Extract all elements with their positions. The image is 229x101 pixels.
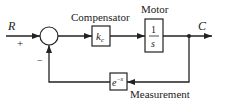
summing-junction	[40, 27, 58, 45]
feedback-line-left	[49, 45, 110, 82]
measurement-title: Measurement	[130, 88, 190, 100]
input-label: R	[7, 19, 16, 33]
minus-sign: −	[37, 55, 43, 66]
block-diagram: R + − Compensator kc Motor 1 s C e−x Mea…	[0, 0, 229, 101]
motor-title: Motor	[141, 3, 169, 15]
motor-denominator: s	[151, 38, 155, 49]
motor-numerator: 1	[151, 24, 156, 35]
output-label: C	[198, 19, 207, 33]
compensator-title: Compensator	[71, 11, 130, 23]
plus-sign: +	[17, 37, 23, 49]
